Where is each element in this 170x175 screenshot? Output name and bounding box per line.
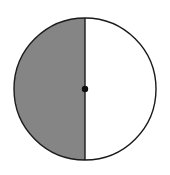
center-point-dot xyxy=(82,86,88,92)
figure-canvas xyxy=(0,0,170,175)
circle-diagram xyxy=(0,0,170,175)
